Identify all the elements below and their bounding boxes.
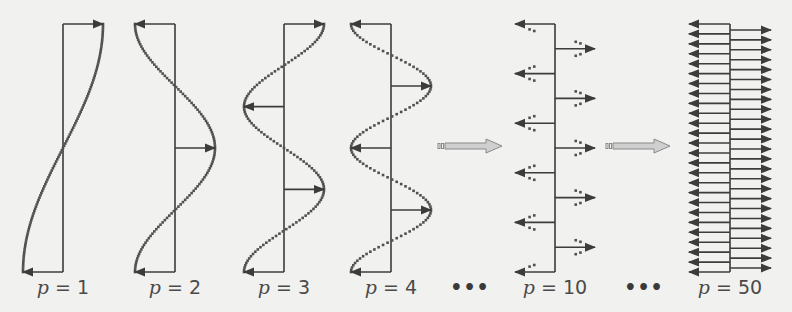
- label-num: 3: [298, 276, 310, 298]
- ellipsis-2: •••: [624, 276, 663, 298]
- label-p2: p = 2: [149, 276, 201, 298]
- label-num: 50: [738, 276, 762, 298]
- label-p3: p = 3: [258, 276, 310, 298]
- label-eq: =: [383, 276, 399, 298]
- label-var: p: [698, 276, 710, 298]
- panel-p3: [243, 23, 326, 274]
- label-num: 2: [189, 276, 201, 298]
- panel-p2: [134, 23, 217, 274]
- ellipsis-1: •••: [450, 276, 489, 298]
- panel-p1: [22, 23, 105, 274]
- transition-arrow-2: [606, 139, 670, 153]
- transition-arrows: [438, 139, 670, 153]
- label-p4: p = 4: [365, 276, 417, 298]
- panel-p50: [689, 24, 771, 272]
- label-p10: p = 10: [523, 276, 587, 298]
- label-num: 10: [563, 276, 587, 298]
- label-eq: =: [276, 276, 292, 298]
- label-var: p: [523, 276, 535, 298]
- standing-wave-diagram: [0, 0, 792, 312]
- label-eq: =: [541, 276, 557, 298]
- label-var: p: [365, 276, 377, 298]
- transition-arrow-1: [438, 139, 502, 153]
- label-eq: =: [167, 276, 183, 298]
- label-var: p: [149, 276, 161, 298]
- label-p1: p = 1: [37, 276, 89, 298]
- panel-p4: [350, 23, 433, 274]
- label-num: 4: [405, 276, 417, 298]
- diagram-stage: p = 1 p = 2 p = 3 p = 4 p = 10 p = 50 ••…: [0, 0, 792, 312]
- label-eq: =: [716, 276, 732, 298]
- panel-p10: [515, 24, 595, 272]
- label-num: 1: [77, 276, 89, 298]
- label-var: p: [37, 276, 49, 298]
- label-var: p: [258, 276, 270, 298]
- label-eq: =: [55, 276, 71, 298]
- label-p50: p = 50: [698, 276, 762, 298]
